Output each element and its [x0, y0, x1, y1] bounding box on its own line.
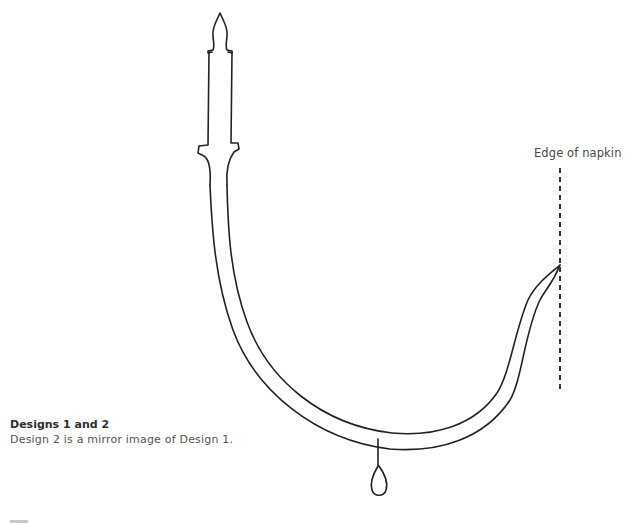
caption-body: Design 2 is a mirror image of Design 1.	[10, 432, 310, 447]
edge-of-napkin-label: Edge of napkin	[534, 146, 622, 160]
figure-caption: Designs 1 and 2 Design 2 is a mirror ima…	[10, 418, 310, 447]
arm-outer-line	[210, 185, 560, 450]
flame-icon	[208, 13, 232, 53]
candle-body	[198, 52, 239, 185]
caption-title: Designs 1 and 2	[10, 418, 310, 432]
